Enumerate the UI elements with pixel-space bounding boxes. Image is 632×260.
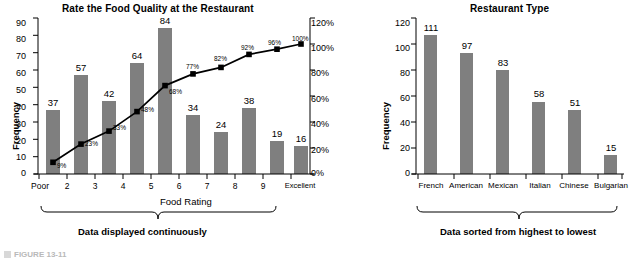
pareto-cat-7: 7 (193, 181, 221, 191)
type-ytick-20: 20 (384, 143, 410, 153)
type-bar-bulgarian[interactable] (604, 155, 617, 174)
type-bar-mexican[interactable] (496, 70, 509, 174)
pareto-cum-label-6: 77% (186, 63, 199, 70)
pareto-ptick-20: 20% (311, 145, 329, 155)
pareto-bar-10[interactable] (294, 146, 308, 174)
pareto-cat-8: 8 (221, 181, 249, 191)
pareto-bar-value-8: 38 (229, 95, 269, 106)
restaurant-type-chart-title: Restaurant Type (470, 3, 549, 14)
figure-root: Rate the Food Quality at the Restaurant … (0, 0, 632, 260)
pareto-bar-9[interactable] (270, 141, 284, 174)
pareto-ytick-90: 90 (2, 18, 26, 28)
caption-data-sorted-highest-to-lowest: Data sorted from highest to lowest (440, 226, 596, 237)
pareto-ytick-50: 50 (2, 85, 26, 95)
pareto-cat-10: Excellent (275, 181, 325, 190)
type-ytick-60: 60 (384, 93, 410, 103)
pareto-bar-value-10: 16 (281, 133, 321, 144)
type-ytick-120: 120 (384, 18, 410, 28)
type-cat-bulgarian: Bulgarian (585, 181, 632, 190)
pareto-bar-2[interactable] (74, 75, 88, 174)
pareto-cat-6: 6 (165, 181, 193, 191)
pareto-cum-label-7: 82% (214, 55, 227, 62)
pareto-bar-value-2: 57 (61, 62, 101, 73)
pareto-bar-3[interactable] (102, 101, 116, 174)
type-bar-chinese[interactable] (568, 110, 581, 174)
type-ytick-100: 100 (384, 43, 410, 53)
pareto-ytick-80: 80 (2, 34, 26, 44)
pareto-ptick-40: 40% (311, 119, 329, 129)
pareto-ptick-100: 100% (311, 43, 334, 53)
pareto-cat-3: 3 (81, 181, 109, 191)
type-ytick-80: 80 (384, 68, 410, 78)
pareto-cum-label-8: 92% (241, 44, 254, 51)
pareto-cat-2: 2 (53, 181, 81, 191)
pareto-ptick-80: 80% (311, 68, 329, 78)
pareto-chart-title: Rate the Food Quality at the Restaurant (62, 3, 254, 14)
type-ytick-40: 40 (384, 118, 410, 128)
type-ytick-0: 0 (384, 168, 410, 178)
pareto-cum-label-5: 68% (169, 88, 182, 95)
pareto-bar-value-6: 34 (173, 102, 213, 113)
type-bar-value-mexican: 83 (482, 57, 524, 68)
type-bar-value-bulgarian: 15 (590, 142, 632, 153)
pareto-cat-1: Poor (24, 181, 56, 191)
pareto-bar-8[interactable] (242, 108, 256, 174)
pareto-ytick-20: 20 (2, 136, 26, 146)
pareto-ytick-70: 70 (2, 51, 26, 61)
type-bar-value-american: 97 (446, 40, 488, 51)
pareto-cat-4: 4 (109, 181, 137, 191)
caption-data-displayed-continuously: Data displayed continuously (78, 226, 207, 237)
pareto-bar-value-3: 42 (89, 88, 129, 99)
pareto-bar-value-1: 37 (33, 97, 73, 108)
pareto-ptick-60: 60% (311, 94, 329, 104)
pareto-cat-9: 9 (249, 181, 277, 191)
pareto-x-axis-title: Food Rating (160, 196, 212, 207)
pareto-cum-label-1: 9% (57, 162, 66, 169)
pareto-cum-label-4: 48% (141, 106, 154, 113)
pareto-cum-label-10: 100% (292, 35, 309, 42)
restaurant-type-chart-panel: Restaurant Type Frequency 120 100 80 60 … (372, 0, 632, 245)
type-bar-value-french: 111 (410, 22, 452, 33)
pareto-bar-4[interactable] (130, 63, 144, 174)
pareto-ytick-0: 0 (2, 168, 26, 178)
pareto-chart-panel: Rate the Food Quality at the Restaurant … (0, 0, 372, 245)
figure-marker-icon (4, 251, 11, 258)
type-bar-italian[interactable] (532, 102, 545, 175)
pareto-bar-value-5: 84 (145, 15, 185, 26)
pareto-bar-value-4: 64 (117, 50, 157, 61)
pareto-bar-7[interactable] (214, 132, 228, 174)
pareto-ytick-60: 60 (2, 68, 26, 78)
pareto-ytick-10: 10 (2, 152, 26, 162)
pareto-cum-label-3: 33% (113, 124, 126, 131)
figure-number-label: FIGURE 13-11 (14, 250, 66, 259)
pareto-ytick-30: 30 (2, 119, 26, 129)
pareto-cum-label-9: 96% (268, 39, 281, 46)
pareto-ptick-0: 0% (311, 168, 324, 178)
type-bar-american[interactable] (460, 53, 473, 174)
pareto-bar-5[interactable] (158, 28, 172, 174)
pareto-bar-value-7: 24 (201, 119, 241, 130)
pareto-cat-5: 5 (137, 181, 165, 191)
pareto-bar-6[interactable] (186, 115, 200, 174)
type-bar-french[interactable] (424, 35, 437, 174)
pareto-cum-label-2: 23% (85, 140, 98, 147)
type-bar-value-chinese: 51 (554, 97, 596, 108)
figure-number-footer: FIGURE 13-11 (4, 250, 66, 259)
pareto-ytick-40: 40 (2, 102, 26, 112)
pareto-ptick-120: 120% (311, 18, 334, 28)
